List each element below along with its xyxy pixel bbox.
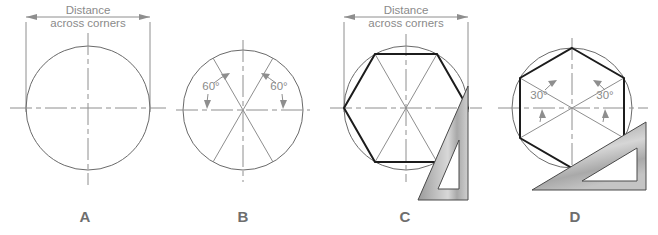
angle-label-60-right: 60° [270,80,287,92]
dimension-label-line2: across corners [50,17,126,29]
leader-arrow-left-lower-icon [204,100,211,109]
leader-arrow-left-lower-icon [539,109,546,118]
leader-arrow-right-lower-icon [280,100,287,109]
dimension-label-line1: Distance [384,4,429,16]
hexagon-construction-figure: Distance across corners A 60° 60° B [0,0,658,235]
panel-label-d: D [570,208,581,225]
panel-d: 30° 30° D [498,38,648,225]
radial-line-upper-left [375,54,406,108]
radial-line-lower-left [375,108,406,162]
arrowhead-right-icon [139,14,150,20]
dimension-label-line2: across corners [368,17,444,29]
radial-line-lower-right [572,108,624,138]
angle-label-60-left: 60° [202,80,219,92]
panel-c: Distance across corners C [330,4,482,225]
radial-line-upper-right [406,54,437,108]
panel-label-c: C [400,208,411,225]
arrowhead-left-icon [26,14,37,20]
arrowhead-left-icon [344,14,355,20]
panel-b: 60° 60° B [176,40,310,225]
radial-line-lower-left [520,108,572,138]
panel-a: Distance across corners A [10,4,166,225]
arrowhead-right-icon [457,14,468,20]
panel-label-a: A [80,208,91,225]
leader-arrow-right-lower-icon [602,109,609,118]
dimension-label-line1: Distance [66,4,111,16]
angle-label-30-right: 30° [596,89,613,101]
radial-line-lower-right [406,108,437,162]
angle-label-30-left: 30° [530,89,547,101]
panel-label-b: B [238,208,249,225]
